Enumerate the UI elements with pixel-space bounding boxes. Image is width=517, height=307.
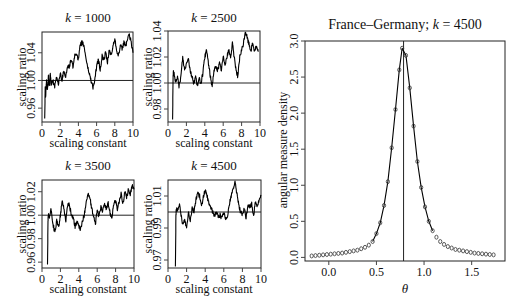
x-tick-label: 4	[202, 126, 208, 140]
data-point-marker	[488, 253, 491, 257]
y-tick-label: 1.04	[24, 42, 38, 63]
data-point-marker	[310, 254, 313, 258]
y-tick-label: 0.98	[24, 228, 38, 249]
scaling-ratio-line	[175, 181, 261, 266]
x-tick-label: 10	[255, 272, 267, 286]
data-point-marker	[442, 242, 445, 246]
data-point-marker	[473, 251, 476, 255]
data-point-marker	[446, 245, 449, 249]
plot-frame	[42, 32, 133, 122]
y-tick-label: 0.5	[287, 214, 301, 229]
x-tick-label: 2	[183, 126, 189, 140]
x-tick-label: 2	[57, 126, 63, 140]
x-tick-label: 4	[75, 126, 81, 140]
y-tick-label: 1.00	[24, 70, 38, 91]
data-point-marker	[461, 249, 464, 253]
y-tick-label: 2.0	[287, 106, 301, 121]
y-tick-label: 0.96	[24, 98, 38, 119]
figure: k = 1000 scaling constant scaling ratio …	[0, 0, 517, 307]
panel-title: France–Germany; k = 4500	[328, 17, 482, 32]
x-tick-label: 0	[39, 126, 45, 140]
data-point-marker	[356, 248, 359, 252]
plot-frame	[168, 31, 260, 122]
data-point-marker	[484, 252, 487, 256]
panel-france-germany-density: France–Germany; k = 4500 θ angular measu…	[276, 17, 505, 296]
x-tick-label: 0.0	[321, 265, 336, 279]
x-tick-label: 2	[184, 272, 190, 286]
y-tick-label: 0.98	[150, 99, 164, 120]
density-line	[373, 48, 433, 241]
y-tick-label: 1.04	[150, 21, 164, 42]
data-point-marker	[363, 245, 366, 249]
panel-k1000: k = 1000 scaling constant scaling ratio …	[15, 10, 139, 150]
y-tick-label: 1.02	[24, 181, 38, 202]
data-point-marker	[439, 240, 442, 244]
panel-k2500: k = 2500 scaling constant scaling ratio …	[141, 10, 266, 150]
x-tick-label: 10	[128, 272, 140, 286]
x-tick-label: 10	[127, 126, 139, 140]
panel-title: k = 4500	[191, 158, 237, 173]
data-point-marker	[348, 250, 351, 254]
x-tick-label: 8	[112, 126, 118, 140]
data-point-marker	[477, 251, 480, 255]
x-tick-label: 1.0	[417, 265, 432, 279]
panel-title: k = 3500	[65, 158, 111, 173]
data-point-marker	[360, 247, 363, 251]
data-point-marker	[481, 252, 484, 256]
x-tick-label: 1.5	[464, 265, 479, 279]
y-tick-label: 1.01	[150, 186, 164, 207]
x-tick-label: 8	[113, 272, 119, 286]
y-tick-label: 1.02	[150, 47, 164, 68]
y-tick-label: 2.5	[287, 70, 301, 85]
scaling-ratio-line	[173, 32, 259, 119]
scaling-ratio-line	[48, 185, 135, 265]
data-point-marker	[314, 254, 317, 258]
x-tick-label: 6	[220, 126, 226, 140]
x-tick-label: 2	[57, 272, 63, 286]
y-tick-label: 3.0	[287, 34, 301, 49]
x-tick-label: 8	[239, 272, 245, 286]
x-tick-label: 6	[94, 272, 100, 286]
data-point-marker	[492, 253, 495, 257]
x-tick-label: 0	[165, 272, 171, 286]
data-point-marker	[333, 252, 336, 256]
x-tick-label: 8	[239, 126, 245, 140]
x-tick-label: 6	[221, 272, 227, 286]
plot-frame	[305, 41, 505, 261]
y-tick-label: 1.00	[24, 205, 38, 226]
y-tick-label: 0.97	[150, 250, 164, 271]
data-point-marker	[329, 252, 332, 256]
x-tick-label: 10	[254, 126, 266, 140]
y-tick-label: 1.5	[287, 142, 301, 157]
x-axis-label: θ	[402, 281, 409, 296]
panel-title: k = 1000	[65, 10, 111, 25]
y-tick-label: 0.99	[150, 218, 164, 239]
x-tick-label: 0	[165, 126, 171, 140]
x-tick-label: 0	[39, 272, 45, 286]
data-point-marker	[337, 251, 340, 255]
data-point-marker	[465, 250, 468, 254]
data-point-marker	[450, 246, 453, 250]
data-point-marker	[435, 235, 438, 239]
scaling-ratio-line	[45, 34, 133, 119]
x-tick-label: 6	[94, 126, 100, 140]
panel-k3500: k = 3500 scaling constant scaling ratio …	[15, 158, 140, 296]
panel-k4500: k = 4500 scaling constant scaling ratio …	[141, 158, 267, 296]
data-point-marker	[367, 243, 370, 247]
y-tick-label: 1.0	[287, 178, 301, 193]
panel-title: k = 2500	[191, 10, 237, 25]
data-point-marker	[454, 247, 457, 251]
x-tick-label: 4	[76, 272, 82, 286]
y-tick-label: 0.96	[24, 252, 38, 273]
data-point-marker	[458, 248, 461, 252]
data-point-marker	[318, 253, 321, 257]
y-tick-label: 0.0	[287, 250, 301, 265]
data-point-marker	[325, 253, 328, 257]
y-tick-label: 1.00	[150, 73, 164, 94]
data-point-marker	[344, 250, 347, 254]
x-tick-label: 4	[202, 272, 208, 286]
data-point-marker	[352, 249, 355, 253]
data-point-marker	[341, 251, 344, 255]
x-tick-label: 0.5	[369, 265, 384, 279]
data-point-marker	[469, 250, 472, 254]
